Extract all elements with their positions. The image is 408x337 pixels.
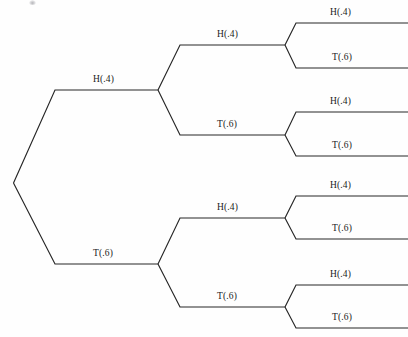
root-branch-to-tail bbox=[14, 183, 159, 264]
edge-label-level3-htt: T(.6) bbox=[332, 141, 352, 151]
l2ht-branch-to-head bbox=[285, 112, 408, 135]
edge-label-level3-hth: H(.4) bbox=[330, 97, 351, 107]
l2th-branch-to-head bbox=[285, 196, 408, 218]
edge-label-level2-tail-tail: T(.6) bbox=[217, 292, 237, 302]
edge-label-level3-thh: H(.4) bbox=[330, 181, 351, 191]
edge-label-level3-hht: T(.6) bbox=[332, 53, 352, 63]
edge-label-level3-hhh: H(.4) bbox=[330, 8, 351, 18]
edge-label-level1-head: H(.4) bbox=[93, 75, 114, 85]
edge-label-level1-tail: T(.6) bbox=[93, 249, 113, 259]
probability-tree-figure: H(.4) T(.6) H(.4) T(.6) H(.4) T(.6) H(.4… bbox=[0, 0, 408, 337]
edge-label-level3-tht: T(.6) bbox=[332, 224, 352, 234]
l2hh-branch-to-head bbox=[285, 23, 408, 45]
l1head-branch-to-head bbox=[158, 45, 285, 90]
l1tail-branch-to-head bbox=[158, 218, 285, 264]
edge-label-level3-tth: H(.4) bbox=[330, 270, 351, 280]
l2tt-branch-to-head bbox=[285, 285, 408, 307]
edge-label-level2-head-head: H(.4) bbox=[217, 30, 238, 40]
edge-label-level2-head-tail: T(.6) bbox=[217, 120, 237, 130]
edge-label-level3-ttt: T(.6) bbox=[332, 313, 352, 323]
edge-label-level2-tail-head: H(.4) bbox=[217, 203, 238, 213]
tree-branches-svg bbox=[0, 0, 408, 337]
root-branch-to-head bbox=[14, 90, 159, 183]
